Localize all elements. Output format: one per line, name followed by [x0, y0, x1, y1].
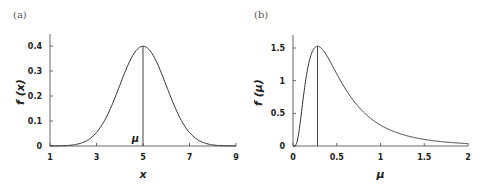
x-tick-label: 5 — [140, 153, 146, 162]
panel-label: (a) — [13, 9, 27, 20]
x-tick-label: 1 — [378, 153, 384, 162]
y-tick-label: 0 — [36, 142, 42, 151]
x-axis-label: μ — [375, 168, 384, 181]
x-tick-label: 3 — [94, 153, 100, 162]
y-tick-label: 0 — [279, 142, 285, 151]
x-tick-label: 1.5 — [417, 153, 432, 162]
x-tick-label: 9 — [233, 153, 239, 162]
x-axis-label: x — [138, 168, 147, 181]
y-tick-label: 0.3 — [28, 67, 42, 76]
x-tick-label: 0.5 — [330, 153, 345, 162]
x-tick-label: 1 — [47, 153, 53, 162]
x-tick-label: 7 — [187, 153, 193, 162]
y-axis-label: f (μ) — [252, 79, 265, 106]
x-tick-label: 2 — [465, 153, 471, 162]
y-tick-label: 0.5 — [271, 109, 286, 118]
y-tick-label: 1.5 — [271, 44, 286, 53]
y-tick-label: 0.1 — [28, 117, 43, 126]
y-axis-label: f (x) — [14, 79, 27, 105]
mu-annotation: μ — [131, 133, 139, 144]
chart-panel-b: (b)00.511.5200.511.5μf (μ) — [252, 9, 471, 181]
y-tick-label: 1 — [279, 77, 285, 86]
y-tick-label: 0.4 — [28, 42, 43, 51]
x-tick-label: 0 — [290, 153, 296, 162]
y-tick-label: 0.2 — [28, 92, 42, 101]
pdf-curve — [293, 46, 468, 146]
panel-label: (b) — [254, 9, 268, 20]
figure: (a)1357900.10.20.30.4xf (x)μ (b)00.511.5… — [0, 0, 487, 188]
chart-panel-a: (a)1357900.10.20.30.4xf (x)μ — [13, 9, 239, 181]
